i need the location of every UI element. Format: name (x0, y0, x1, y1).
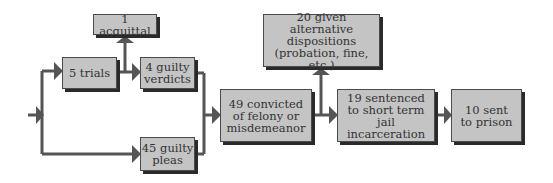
node-label: 5 trials (69, 67, 110, 79)
node-label: 49 convicted of felony or misdemeanor (226, 98, 305, 134)
node-alternative-dispositions: 20 given alternative dispositions (proba… (263, 14, 380, 67)
node-label: 45 guilty pleas (142, 142, 194, 166)
node-sent-to-prison: 10 sent to prison (451, 89, 522, 142)
node-acquittal: 1 acquittal (93, 14, 157, 35)
node-guilty-pleas: 45 guilty pleas (140, 137, 195, 171)
node-trials: 5 trials (62, 57, 117, 89)
node-label: 10 sent to prison (461, 104, 513, 128)
node-guilty-verdicts: 4 guilty verdicts (140, 57, 195, 89)
node-label: 4 guilty verdicts (144, 61, 191, 85)
node-label: 20 given alternative dispositions (proba… (264, 11, 379, 71)
node-label: 19 sentenced to short term jail incarcer… (338, 92, 434, 140)
node-convicted: 49 convicted of felony or misdemeanor (220, 89, 312, 142)
node-label: 1 acquittal (94, 13, 156, 37)
node-sentenced-jail: 19 sentenced to short term jail incarcer… (337, 89, 435, 142)
flowchart-canvas: 1 acquittal 5 trials 4 guilty verdicts 4… (0, 0, 553, 183)
